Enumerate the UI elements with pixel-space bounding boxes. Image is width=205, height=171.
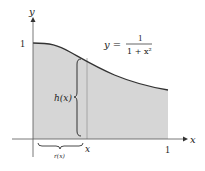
diagram-canvas: y x 1 1 x y = 1 1 + x² h(x) r(x) bbox=[0, 0, 205, 171]
y-tick-one: 1 bbox=[20, 38, 25, 49]
plot-svg: y x 1 1 x y = 1 1 + x² h(x) r(x) bbox=[0, 0, 205, 171]
x-axis-label: x bbox=[190, 134, 196, 145]
y-axis-label: y bbox=[28, 6, 35, 17]
y-axis-arrow-icon bbox=[31, 17, 36, 22]
equation-denominator: 1 + x² bbox=[127, 47, 152, 56]
height-label: h(x) bbox=[54, 93, 72, 103]
radius-label: r(x) bbox=[54, 152, 66, 159]
equation-numerator: 1 bbox=[138, 33, 143, 43]
x-tick-var: x bbox=[85, 144, 90, 154]
equation-lhs: y = bbox=[103, 39, 121, 50]
x-axis-arrow-icon bbox=[183, 137, 188, 142]
radius-brace bbox=[38, 143, 83, 149]
shaded-region bbox=[33, 43, 168, 139]
x-tick-one: 1 bbox=[165, 144, 170, 155]
